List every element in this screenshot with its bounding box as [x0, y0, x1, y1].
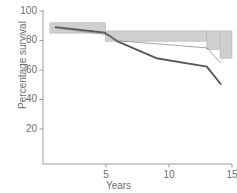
band-4	[220, 31, 232, 58]
y-tick-label-40: 40	[11, 93, 37, 104]
x-tick-label-15: 15	[220, 169, 237, 180]
x-tick-label-10: 10	[157, 169, 181, 180]
confidence-band-group	[50, 23, 232, 58]
y-tick-label-60: 60	[11, 64, 37, 75]
x-axis-label: Years	[0, 180, 237, 191]
band-3	[207, 31, 220, 49]
y-tick-label-100: 100	[11, 5, 37, 16]
y-tick-label-80: 80	[11, 34, 37, 45]
x-tick-label-5: 5	[94, 169, 118, 180]
survival-chart: Percentage survival Years 51015 20406080…	[0, 0, 237, 193]
y-tick-label-20: 20	[11, 123, 37, 134]
band-2	[105, 31, 206, 41]
